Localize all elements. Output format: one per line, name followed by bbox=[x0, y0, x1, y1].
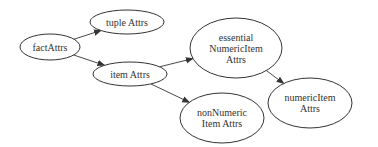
node-label-line: Attrs bbox=[300, 103, 320, 114]
edge-factAttrs-to-tupleAttrs-arrow-icon bbox=[74, 31, 101, 40]
node-nonNumericItemAttrs: nonNumericItem Attrs bbox=[180, 93, 264, 143]
diagram-canvas: factAttrstuple Attrsitem AttrsessentialN… bbox=[0, 0, 378, 147]
node-tupleAttrs: tuple Attrs bbox=[90, 10, 164, 34]
edge-essentialNumericItemAttrs-to-numericItemAttrs-arrow-icon bbox=[266, 71, 283, 84]
node-label-line: tuple Attrs bbox=[106, 17, 148, 28]
node-label-line: item Attrs bbox=[110, 69, 150, 80]
node-label-line: nonNumeric bbox=[197, 107, 248, 118]
node-itemAttrs: item Attrs bbox=[93, 62, 167, 86]
node-label-line: essential bbox=[219, 32, 254, 43]
node-factAttrs: factAttrs bbox=[20, 34, 80, 60]
node-label-line: NumericItem bbox=[209, 43, 263, 54]
node-essentialNumericItemAttrs: essentialNumericItemAttrs bbox=[190, 18, 282, 78]
node-label-line: numericItem bbox=[284, 92, 335, 103]
edge-itemAttrs-to-essentialNumericItemAttrs-arrow-icon bbox=[160, 59, 193, 67]
edge-factAttrs-to-itemAttrs-arrow-icon bbox=[74, 55, 105, 65]
node-numericItemAttrs: numericItemAttrs bbox=[268, 78, 352, 128]
edge-itemAttrs-to-nonNumericItemAttrs-arrow-icon bbox=[151, 84, 190, 102]
node-label-line: Attrs bbox=[226, 54, 246, 65]
nodes-layer: factAttrstuple Attrsitem AttrsessentialN… bbox=[20, 10, 352, 143]
node-label-line: Item Attrs bbox=[202, 118, 242, 129]
node-label-line: factAttrs bbox=[33, 42, 68, 53]
